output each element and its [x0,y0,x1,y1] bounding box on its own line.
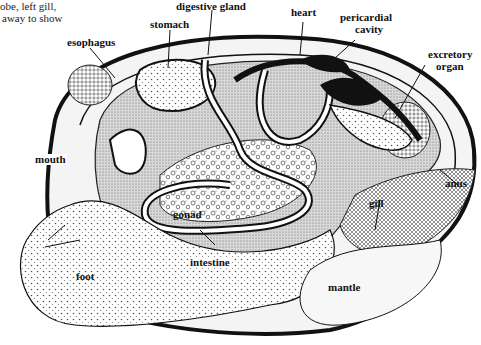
label-pericardial-cavity-2: cavity [355,24,383,35]
label-esophagus: esophagus [67,37,115,48]
label-mouth: mouth [34,154,67,165]
label-pericardial-cavity-1: pericardial [340,12,392,23]
label-foot: foot [76,271,94,282]
label-excretory-organ-1: excretory [428,49,472,60]
label-mantle: mantle [328,282,360,293]
label-stomach: stomach [150,19,189,30]
label-intestine: intestine [189,257,231,268]
label-anus: anus [445,178,467,189]
label-excretory-organ-2: organ [436,61,464,72]
caption-line-2: away to show [2,12,63,24]
caption-line-1: obe, left gill, [0,0,56,12]
label-heart: heart [291,7,316,18]
label-gill: gill [369,198,384,209]
label-digestive-gland: digestive gland [176,1,246,12]
diagram-illustration [0,0,481,345]
label-gonad: gonad [173,209,202,220]
clam-anatomy-diagram: obe, left gill, away to show esophagus s… [0,0,481,345]
